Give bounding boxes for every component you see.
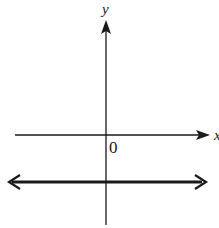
origin-label: 0 bbox=[109, 138, 118, 157]
x-axis-label: x bbox=[213, 127, 219, 143]
coordinate-plane: y x 0 bbox=[0, 0, 219, 228]
y-axis-label: y bbox=[100, 1, 109, 17]
